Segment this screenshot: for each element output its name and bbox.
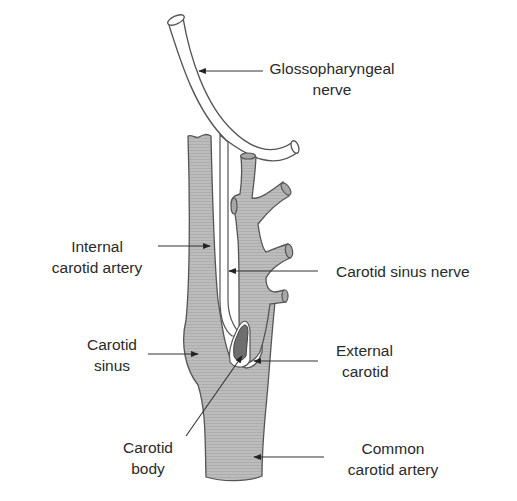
label-line: sinus [76, 355, 148, 376]
label-line: carotid [336, 361, 393, 382]
label-line: carotid artery [38, 257, 156, 278]
label-line: Internal [38, 236, 156, 257]
label-line: Glossopharyngeal [262, 58, 402, 79]
label-carotid-sinus-nerve: Carotid sinus nerve [336, 261, 470, 282]
label-external-carotid: External carotid [336, 340, 393, 382]
label-line: body [112, 458, 184, 479]
label-common-carotid-artery: Common carotid artery [334, 438, 452, 480]
label-line: Carotid sinus nerve [336, 261, 470, 282]
label-carotid-sinus: Carotid sinus [76, 334, 148, 376]
label-carotid-body: Carotid body [112, 437, 184, 479]
label-line: Carotid [76, 334, 148, 355]
label-glossopharyngeal-nerve: Glossopharyngeal nerve [262, 58, 402, 100]
label-line: nerve [262, 79, 402, 100]
label-line: External [336, 340, 393, 361]
label-internal-carotid-artery: Internal carotid artery [38, 236, 156, 278]
label-line: Carotid [112, 437, 184, 458]
label-line: carotid artery [334, 459, 452, 480]
label-line: Common [334, 438, 452, 459]
diagram-canvas: Glossopharyngeal nerve Internal carotid … [0, 0, 517, 501]
